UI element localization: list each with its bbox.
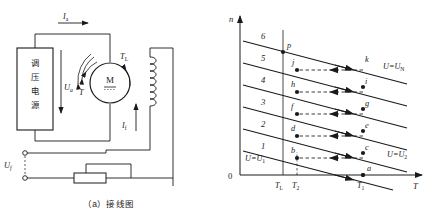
flow-arrow-1 (335, 175, 350, 179)
point-a-dot (361, 173, 365, 177)
terminal-positive (23, 151, 28, 156)
armature-top-wire (35, 34, 110, 48)
x-axis-label: T (413, 181, 419, 191)
curve-label-4: 4 (261, 75, 266, 85)
annotation-UN: U=UN (383, 62, 405, 72)
source-char-3: 源 (31, 100, 40, 110)
motor-symbol-letter: M (106, 75, 114, 85)
point-label-b: b (291, 146, 295, 155)
field-voltage-label: Uf (4, 161, 13, 171)
characteristic-line-4 (243, 85, 407, 128)
panel-a-caption: （a）接线图 (0, 197, 217, 209)
field-rheostat (74, 173, 106, 183)
xtick-T2: T2 (292, 181, 300, 191)
characteristic-line-2 (243, 129, 407, 172)
torque-label: T (79, 88, 85, 97)
source-char-0: 调 (31, 58, 39, 68)
terminal-negative (23, 176, 28, 181)
origin-label: 0 (228, 171, 232, 181)
point-label-g: g (365, 99, 369, 108)
panel-mechanical-characteristics: n T 0 TL T2 T1 (217, 0, 434, 219)
field-supply-top-wire (27, 150, 106, 153)
source-char-2: 电 (31, 86, 40, 96)
point-label-k: k (365, 55, 369, 64)
armature-current-label: Ia (62, 12, 69, 22)
source-char-1: 压 (31, 72, 39, 82)
wiring-diagram-svg: 调 压 电 源 Ia Ua M T (0, 0, 217, 197)
curve-label-2: 2 (261, 119, 266, 129)
point-h-dot (295, 90, 299, 94)
point-d-dot (295, 134, 299, 138)
panel-wiring-diagram: 调 压 电 源 Ia Ua M T (0, 0, 217, 219)
point-label-j: j (291, 58, 295, 67)
xtick-TL: TL (275, 181, 284, 191)
point-label-d: d (291, 124, 296, 133)
figure-root: 调 压 电 源 Ia Ua M T (0, 0, 434, 219)
field-current-label: If (121, 121, 127, 131)
characteristic-line-3 (243, 107, 407, 150)
point-j-dot (295, 68, 299, 72)
curve-label-6: 6 (261, 31, 266, 41)
transition-arrowheads (329, 67, 338, 161)
point-f-dot (295, 112, 299, 116)
point-label-f: f (291, 102, 295, 111)
point-label-i: i (365, 77, 368, 86)
field-bottom-wire (106, 106, 150, 150)
armature-voltage-label: Ua (64, 83, 73, 93)
curve-label-1: 1 (261, 141, 265, 151)
point-label-p: p (286, 41, 291, 50)
y-axis-label: n (229, 14, 233, 24)
point-p-dot (281, 50, 285, 54)
point-label-a: a (367, 164, 371, 173)
point-label-e: e (365, 121, 369, 130)
point-label-c: c (365, 143, 369, 152)
field-top-wire (150, 48, 173, 186)
point-label-h: h (291, 80, 295, 89)
annotation-U2: U=U2 (387, 150, 407, 160)
curve-label-5: 5 (261, 53, 266, 63)
field-winding-coil (150, 57, 156, 106)
characteristics-chart-svg: n T 0 TL T2 T1 (217, 0, 434, 197)
annotation-U1: U=U1 (245, 154, 265, 164)
point-b-dot (295, 156, 299, 160)
curve-label-3: 3 (260, 97, 265, 107)
load-torque-label: TL (120, 52, 129, 62)
